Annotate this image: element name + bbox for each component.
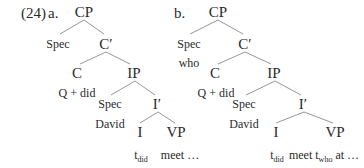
node-ibar: I′	[299, 97, 307, 112]
node-cbar: C′	[238, 37, 251, 52]
tree-a-label: a.	[48, 6, 58, 21]
node-i: I	[274, 125, 279, 140]
spec-cp-content: who	[179, 57, 200, 69]
tree-branches	[0, 0, 364, 168]
node-vp: VP	[166, 125, 185, 140]
node-cp: CP	[209, 5, 227, 20]
node-cbar: C′	[99, 37, 112, 52]
c-content: Q + did	[59, 87, 96, 99]
vp-content: meet twho at …	[289, 149, 359, 161]
node-c: C	[72, 66, 82, 81]
spec-ip-content: David	[229, 118, 258, 130]
node-c: C	[210, 66, 220, 81]
example-number: (24)	[21, 6, 46, 21]
i-trace: tdid	[270, 149, 284, 161]
node-cp: CP	[75, 5, 93, 20]
tree-b-label: b.	[174, 6, 185, 21]
node-ip: IP	[127, 66, 140, 81]
node-spec-ip: Spec	[98, 98, 121, 110]
node-ip: IP	[267, 66, 280, 81]
spec-ip-content: David	[95, 118, 124, 130]
node-spec-ip: Spec	[232, 98, 255, 110]
c-content: Q + did	[198, 87, 235, 99]
node-i: I	[138, 125, 143, 140]
node-vp: VP	[325, 125, 344, 140]
vp-content: meet …	[161, 149, 199, 161]
node-spec-cp: Spec	[177, 38, 200, 50]
i-trace: tdid	[134, 149, 148, 161]
node-spec-cp: Spec	[46, 38, 69, 50]
node-ibar: I′	[153, 97, 161, 112]
